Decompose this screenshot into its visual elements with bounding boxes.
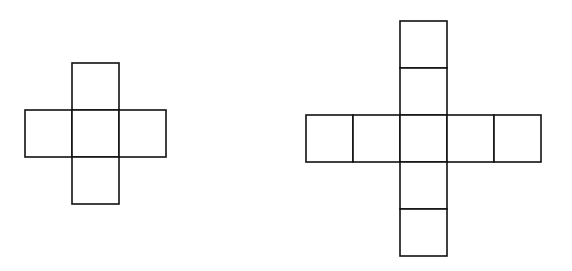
small-cross-square	[25, 110, 72, 157]
large-cross-figure	[306, 21, 541, 256]
small-cross-square	[72, 157, 119, 204]
small-cross-square	[72, 110, 119, 157]
large-cross-square	[400, 68, 447, 115]
large-cross-square	[400, 162, 447, 209]
small-cross-square	[72, 63, 119, 110]
large-cross-square	[400, 209, 447, 256]
large-cross-square	[353, 115, 400, 162]
diagram-canvas	[0, 0, 572, 271]
large-cross-square	[306, 115, 353, 162]
small-cross-figure	[25, 63, 166, 204]
small-cross-square	[119, 110, 166, 157]
large-cross-square	[400, 21, 447, 68]
large-cross-square	[447, 115, 494, 162]
large-cross-square	[400, 115, 447, 162]
large-cross-square	[494, 115, 541, 162]
